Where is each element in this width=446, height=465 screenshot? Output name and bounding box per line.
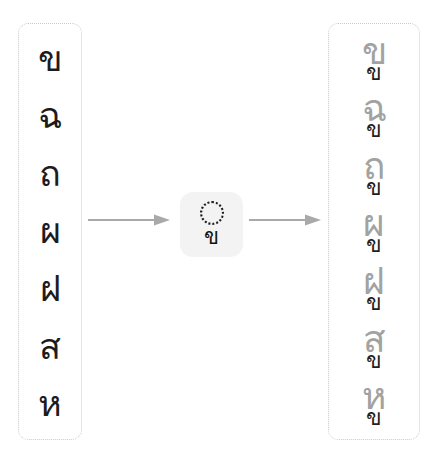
source-glyph: ฉ — [38, 98, 63, 134]
list-item: ผ — [19, 203, 81, 259]
source-glyph: ส — [39, 329, 61, 365]
arrow-right-icon — [88, 213, 174, 227]
list-item: ถ ข — [329, 146, 419, 202]
source-glyph: ห — [38, 386, 62, 422]
subscript-rule-chip: ข — [180, 192, 243, 257]
subscript-mark-glyph: ข — [204, 226, 219, 248]
diagram-canvas: ข ฉ ถ ผ ฝ ส ห ข — [0, 0, 446, 465]
source-glyph: ถ — [39, 156, 61, 192]
dotted-circle-icon — [200, 201, 224, 225]
composed-mark-glyph: ข — [366, 292, 382, 313]
list-item: ฝ — [19, 261, 81, 317]
list-item: ข ข — [329, 31, 419, 87]
list-item: ห — [19, 376, 81, 432]
composed-mark-glyph: ข — [366, 407, 382, 428]
composed-mark-glyph: ข — [366, 119, 382, 140]
arrow-right-icon — [249, 213, 325, 227]
composed-mark-glyph: ข — [366, 177, 382, 198]
composed-mark-glyph: ข — [366, 62, 382, 83]
composed-glyph: ข ข — [362, 35, 387, 83]
list-item: ฝ ข — [329, 261, 419, 317]
composed-mark-glyph: ข — [366, 234, 382, 255]
composed-mark-glyph: ข — [366, 350, 382, 371]
list-item: ถ — [19, 146, 81, 202]
list-item: ข — [19, 31, 81, 87]
composed-glyph: ฝ ข — [363, 265, 385, 313]
composed-character-column: ข ข ฉ ข ถ ข ผ ข ฝ ข — [328, 23, 420, 440]
composed-glyph: ถ ข — [363, 150, 385, 198]
list-item: ส ข — [329, 319, 419, 375]
source-glyph: ผ — [40, 213, 61, 249]
composed-glyph: ฉ ข — [362, 92, 387, 140]
source-character-column: ข ฉ ถ ผ ฝ ส ห — [18, 23, 82, 440]
composed-glyph: ส ข — [363, 323, 386, 371]
list-item: ฉ ข — [329, 88, 419, 144]
list-item: ห ข — [329, 376, 419, 432]
source-glyph: ข — [38, 41, 63, 77]
composed-glyph: ผ ข — [363, 207, 385, 255]
list-item: ส — [19, 319, 81, 375]
source-glyph: ฝ — [40, 271, 61, 307]
list-item: ผ ข — [329, 203, 419, 259]
composed-glyph: ห ข — [362, 380, 386, 428]
list-item: ฉ — [19, 88, 81, 144]
